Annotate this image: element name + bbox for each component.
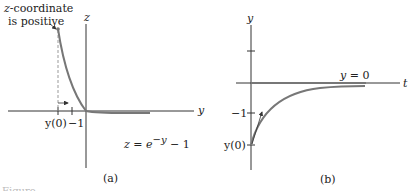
- y-axis-label-b: y: [246, 12, 254, 25]
- annotation-line2: is positive: [8, 15, 64, 28]
- caption-a: (a): [103, 172, 118, 185]
- annotation-line1: z-coordinate: [3, 2, 73, 15]
- caption-b: (b): [320, 173, 336, 186]
- equation-a: z = e−y − 1: [123, 134, 190, 151]
- tick-label-y0-a: y(0): [44, 117, 67, 130]
- equilibrium-label: y = 0: [339, 69, 369, 82]
- curve-a: [58, 29, 150, 113]
- tick-label-neg1-b: −1: [231, 107, 247, 120]
- curve-b: [251, 86, 365, 145]
- z-axis-label: z: [83, 11, 90, 24]
- t-axis-label: t: [403, 77, 408, 90]
- diagram-canvas: z-coordinate is positive z y y(0) −1 z =…: [0, 0, 408, 191]
- tangent-arrow: [252, 112, 262, 144]
- tick-label-neg1-a: −1: [68, 117, 84, 130]
- tick-label-y0-b: y(0): [223, 139, 246, 152]
- figure-caption-partial: Figure: [2, 185, 36, 191]
- panel-b: y t y = 0 −1 y(0) (b): [223, 12, 408, 186]
- y-axis-label-a: y: [197, 104, 205, 117]
- panel-a: z-coordinate is positive z y y(0) −1 z =…: [3, 2, 205, 185]
